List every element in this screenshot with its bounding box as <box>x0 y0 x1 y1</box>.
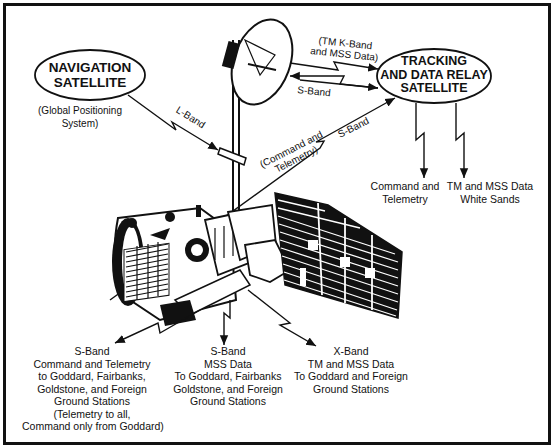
gps-note-line1: (Global Positioning <box>30 105 130 118</box>
ground-right-line: TM and MSS Data <box>286 358 416 371</box>
navigation-satellite-note: (Global Positioning System) <box>30 105 130 130</box>
s-band-mss-downlink <box>224 300 230 345</box>
ground-right-label: X-Band TM and MSS Data To Goddard and Fo… <box>286 345 416 395</box>
tdrs-output-left-line2: Telemetry <box>362 193 448 206</box>
navigation-satellite-title: NAVIGATION SATELLITE <box>35 60 145 90</box>
x-band-downlink <box>248 290 316 346</box>
tdrs-output-left-line1: Command and <box>362 180 448 193</box>
tdrs-title-line1: TRACKING <box>377 55 491 69</box>
tdrs-title-line3: SATELLITE <box>377 82 491 96</box>
ground-left-line: Goldstone, and Foreign <box>22 383 162 396</box>
ground-left-line: S-Band <box>22 345 162 358</box>
solar-panel <box>275 193 402 318</box>
tdrs-downlink-left <box>416 103 424 178</box>
satellite-body <box>112 205 290 326</box>
ground-left-label: S-Band Command and Telemetry to Goddard,… <box>22 345 162 433</box>
tdrs-downlink-right <box>456 103 464 178</box>
navigation-title-line1: NAVIGATION <box>35 60 145 75</box>
tdrs-output-right-line1: TM and MSS Data <box>440 180 540 193</box>
ground-left-line: Command only from Goddard) <box>22 420 162 433</box>
tdrs-output-right-line2: White Sands <box>440 193 540 206</box>
ground-center-label: S-Band MSS Data To Goddard, Fairbanks Go… <box>170 345 286 408</box>
k-band-link <box>290 62 378 70</box>
ground-center-line: Ground Stations <box>170 395 286 408</box>
tdrs-title: TRACKING AND DATA RELAY SATELLITE <box>377 55 491 96</box>
navigation-title-line2: SATELLITE <box>35 75 145 90</box>
ground-center-line: S-Band <box>170 345 286 358</box>
ground-left-line: Ground Stations <box>22 395 162 408</box>
ground-center-line: MSS Data <box>170 358 286 371</box>
gps-note-line2: System) <box>30 118 130 131</box>
ground-left-line: Command and Telemetry <box>22 358 162 371</box>
ground-right-line: X-Band <box>286 345 416 358</box>
ground-left-line: to Goddard, Fairbanks, <box>22 370 162 383</box>
ground-left-line: (Telemetry to all, <box>22 408 162 421</box>
tdrs-output-white-sands: TM and MSS Data White Sands <box>440 180 540 205</box>
tdrs-title-line2: AND DATA RELAY <box>377 69 491 83</box>
ground-right-line: Ground Stations <box>286 383 416 396</box>
tdrs-output-command-telemetry: Command and Telemetry <box>362 180 448 205</box>
ground-center-line: Goldstone, and Foreign <box>170 383 286 396</box>
ground-right-line: To Goddard and Foreign <box>286 370 416 383</box>
ground-center-line: To Goddard, Fairbanks <box>170 370 286 383</box>
